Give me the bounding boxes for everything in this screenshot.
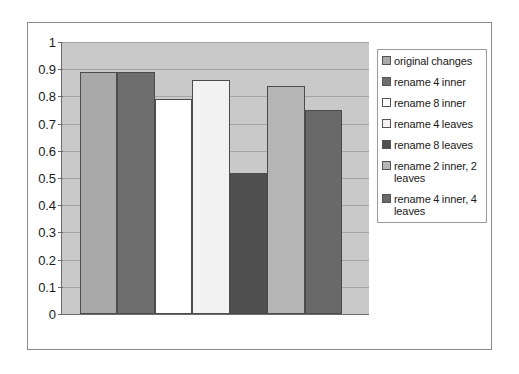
legend-label: rename 2 inner, 2 leaves	[394, 160, 483, 184]
y-tick-label: 0.9	[28, 63, 56, 76]
legend-swatch-icon	[382, 194, 391, 203]
legend-item[interactable]: rename 2 inner, 2 leaves	[382, 160, 483, 184]
bar	[80, 72, 117, 314]
legend-item[interactable]: original changes	[382, 55, 483, 67]
plot-area	[61, 42, 369, 315]
legend-label: rename 4 inner	[394, 76, 466, 88]
legend-item[interactable]: rename 8 leaves	[382, 139, 483, 151]
y-tick-label: 0.1	[28, 281, 56, 294]
legend-item[interactable]: rename 4 inner, 4 leaves	[382, 193, 483, 217]
legend-item[interactable]: rename 4 leaves	[382, 118, 483, 130]
legend-label: rename 8 inner	[394, 97, 466, 109]
legend-swatch-icon	[382, 98, 391, 107]
y-tick-mark	[58, 260, 63, 261]
y-tick-mark	[58, 151, 63, 152]
bar	[117, 72, 154, 314]
legend-swatch-icon	[382, 161, 391, 170]
bar	[267, 86, 304, 314]
legend-label: rename 4 inner, 4 leaves	[394, 193, 483, 217]
legend-swatch-icon	[382, 119, 391, 128]
y-axis: 00.10.20.30.40.50.60.70.80.91	[28, 23, 58, 351]
y-tick-mark	[58, 96, 63, 97]
bar	[192, 80, 229, 314]
bar	[305, 110, 342, 314]
y-tick-label: 0.5	[28, 172, 56, 185]
legend-item[interactable]: rename 8 inner	[382, 97, 483, 109]
y-tick-label: 0.3	[28, 226, 56, 239]
legend-label: rename 8 leaves	[394, 139, 473, 151]
y-tick-label: 0.8	[28, 90, 56, 103]
chart-frame: 00.10.20.30.40.50.60.70.80.91 original c…	[27, 22, 492, 350]
y-tick-mark	[58, 205, 63, 206]
bar-series	[62, 42, 369, 314]
y-tick-mark	[58, 69, 63, 70]
bar	[155, 99, 192, 314]
y-tick-mark	[58, 287, 63, 288]
y-tick-mark	[58, 232, 63, 233]
chart-area: 00.10.20.30.40.50.60.70.80.91 original c…	[28, 23, 493, 351]
legend-label: rename 4 leaves	[394, 118, 473, 130]
legend-item[interactable]: rename 4 inner	[382, 76, 483, 88]
y-tick-label: 0.4	[28, 199, 56, 212]
y-tick-label: 0.7	[28, 118, 56, 131]
bar	[230, 173, 267, 314]
legend-swatch-icon	[382, 56, 391, 65]
chart-screenshot: 00.10.20.30.40.50.60.70.80.91 original c…	[0, 0, 519, 374]
chart-legend: original changesrename 4 innerrename 8 i…	[377, 49, 487, 223]
y-tick-label: 0.6	[28, 145, 56, 158]
legend-swatch-icon	[382, 77, 391, 86]
y-tick-mark	[58, 124, 63, 125]
legend-label: original changes	[394, 55, 472, 67]
y-tick-mark	[58, 42, 63, 43]
legend-swatch-icon	[382, 140, 391, 149]
y-tick-label: 0.2	[28, 254, 56, 267]
y-tick-label: 1	[28, 36, 56, 49]
y-tick-label: 0	[28, 308, 56, 321]
y-tick-mark	[58, 178, 63, 179]
y-tick-mark	[58, 314, 63, 315]
